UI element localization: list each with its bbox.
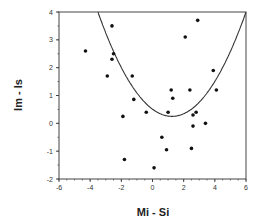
data-point <box>112 52 116 56</box>
y-tick-label: 3 <box>49 36 53 43</box>
data-point <box>215 88 219 92</box>
data-point <box>110 24 114 28</box>
data-point <box>211 69 215 73</box>
y-tick-label: -1 <box>47 148 53 155</box>
data-point <box>152 166 156 170</box>
data-point <box>204 122 208 126</box>
y-tick-label: -2 <box>47 176 53 183</box>
data-point <box>84 49 88 53</box>
x-tick-label: -6 <box>56 184 62 191</box>
x-tick-label: 2 <box>182 184 186 191</box>
x-tick-label: 4 <box>213 184 217 191</box>
y-tick-label: 4 <box>49 9 53 16</box>
data-point <box>166 110 170 114</box>
x-tick-label: -4 <box>87 184 93 191</box>
data-point <box>123 158 127 162</box>
data-point <box>121 115 125 119</box>
data-point <box>132 98 136 102</box>
y-tick-label: 2 <box>49 64 53 71</box>
data-point <box>165 148 169 152</box>
data-point <box>194 110 198 114</box>
x-tick-label: -2 <box>118 184 124 191</box>
data-point <box>183 35 187 39</box>
x-axis-label: Mi - Si <box>137 206 169 218</box>
data-points <box>84 19 219 170</box>
scatter-chart: -6-4-20246-2-101234 Mi - Si Im - Is <box>0 0 261 224</box>
data-point <box>110 58 114 62</box>
data-point <box>196 19 200 23</box>
y-axis-label: Im - Is <box>12 79 24 111</box>
data-point <box>130 74 134 78</box>
y-tick-label: 1 <box>49 92 53 99</box>
data-point <box>191 113 195 117</box>
data-point <box>188 88 192 92</box>
data-point <box>190 147 194 151</box>
data-point <box>191 124 195 128</box>
x-tick-label: 0 <box>151 184 155 191</box>
data-point <box>106 74 110 78</box>
data-point <box>144 110 148 114</box>
data-point <box>160 135 164 139</box>
x-tick-label: 6 <box>244 184 248 191</box>
y-tick-label: 0 <box>49 120 53 127</box>
data-point <box>171 96 175 100</box>
fitted-curve <box>98 12 246 116</box>
data-point <box>169 88 173 92</box>
axes: -6-4-20246-2-101234 <box>47 9 248 192</box>
